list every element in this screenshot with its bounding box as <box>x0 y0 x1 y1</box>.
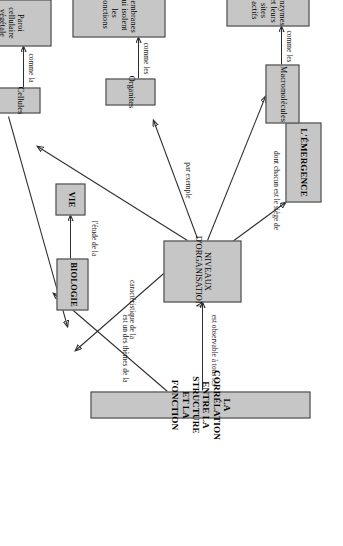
node-niveaux[interactable]: NIVEAUX D'ORGANISATION <box>163 240 241 302</box>
node-macromolecules[interactable]: Macromolécules <box>265 64 299 123</box>
node-niveaux-label: NIVEAUX D'ORGANISATION <box>193 235 212 306</box>
link-label-dont-chacun-text: dont chacun est le siège de <box>271 150 280 229</box>
node-emergence[interactable]: L'ÉMERGENCE <box>285 122 321 202</box>
node-vie-label: VIE <box>65 191 75 207</box>
node-emergence-label: L'ÉMERGENCE <box>298 128 308 197</box>
concept-map-board: LA CORRÉLATION ENTRE LA STRUCTURE ET LA … <box>0 0 343 546</box>
node-cellules[interactable]: Cellules <box>0 87 40 113</box>
link-label-est-observable-text: est observable à tous les <box>209 314 218 385</box>
wire-niveaux-macromolecules <box>207 96 265 240</box>
link-label-comme-la-text: comme la <box>26 53 35 82</box>
node-paroi-label: Paroi cellulaire végétale qui soutient <box>0 3 24 42</box>
node-cellules-label: Cellules <box>14 86 23 114</box>
concept-map-canvas: LA CORRÉLATION ENTRE LA STRUCTURE ET LA … <box>0 0 343 546</box>
node-biologie-label: BIOLOGIE <box>67 262 77 307</box>
link-label-comme-les-2: comme les <box>141 40 149 76</box>
node-membranes-label: Membranes qui isolent les fonctions <box>100 0 137 33</box>
link-label-letude-de-la: l'étude de la <box>89 210 97 266</box>
link-label-comme-les-1: comme les <box>284 29 292 63</box>
link-label-comme-la: comme la <box>26 50 34 85</box>
link-label-comme-les-1-text: comme les <box>284 30 293 62</box>
node-enzymes-label: Enzymes et leurs sites actifs <box>249 0 286 25</box>
link-label-dont-chacun: dont chacun est le siège de <box>271 148 279 232</box>
node-membranes[interactable]: Membranes qui isolent les fonctions <box>72 0 165 37</box>
link-label-par-exemple: par exemple <box>183 150 191 210</box>
node-paroi[interactable]: Paroi cellulaire végétale qui soutient <box>0 0 51 46</box>
link-label-par-exemple-text: par exemple <box>183 162 192 198</box>
link-label-letude-de-la-text: l'étude de la <box>89 220 98 255</box>
link-label-est-observable: est observable à tous les <box>209 312 217 388</box>
link-label-comme-les-2-text: comme les <box>141 42 150 74</box>
link-label-caracteristique-text: caractéristique de la <box>127 279 136 338</box>
node-enzymes[interactable]: Enzymes et leurs sites actifs <box>226 0 309 26</box>
link-label-caracteristique: caractéristique de la <box>127 262 135 356</box>
node-correlation-label: LA CORRÉLATION ENTRE LA STRUCTURE ET LA … <box>169 370 231 440</box>
node-organites-label: Organites <box>125 75 134 108</box>
node-organites[interactable]: Organites <box>105 78 155 105</box>
node-macromolecules-label: Macromolécules <box>277 66 286 122</box>
node-vie[interactable]: VIE <box>55 183 85 215</box>
node-biologie[interactable]: BIOLOGIE <box>56 258 88 310</box>
